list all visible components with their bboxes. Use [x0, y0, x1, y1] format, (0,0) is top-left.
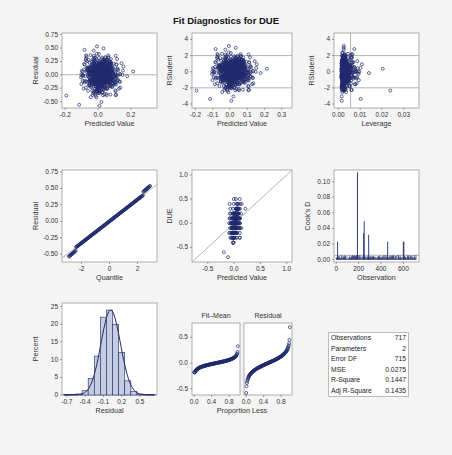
y-tick: 0.75	[45, 168, 58, 175]
y-tick: 0.10	[317, 178, 330, 185]
y-tick: -4	[324, 100, 330, 107]
y-tick: 0.0	[179, 359, 188, 366]
y-tick: -0.50	[43, 98, 58, 105]
x-tick: 0.2	[260, 111, 269, 118]
y-tick: 0.06	[317, 209, 330, 216]
plot-rf-	[190, 323, 240, 397]
svg-text:Observation: Observation	[357, 273, 396, 282]
x-tick: 0.8	[277, 398, 286, 405]
stat-row: Adj R-Square0.1435	[329, 386, 408, 397]
x-tick: 0.3	[277, 111, 286, 118]
svg-text:Predicted Value: Predicted Value	[217, 273, 267, 282]
x-tick: -0.4	[80, 398, 92, 405]
svg-text:Residual: Residual	[254, 312, 282, 319]
y-tick: -0.25	[43, 84, 58, 91]
y-tick: 0.5	[179, 195, 188, 202]
plot-rstudent-vs-predicted	[190, 33, 292, 110]
stat-row: R-Square0.1447	[329, 375, 408, 386]
x-tick: 0	[334, 265, 338, 272]
x-tick: -0.7	[61, 398, 73, 405]
y-tick: 10	[51, 356, 59, 363]
y-tick: 0.04	[317, 224, 330, 231]
svg-text:Quantile: Quantile	[96, 273, 123, 282]
stat-row: Error DF715	[329, 354, 408, 365]
svg-text:Fit–Mean: Fit–Mean	[201, 312, 230, 319]
y-tick: -4	[182, 100, 188, 107]
plot-q-q-plot-of-residuals	[60, 170, 157, 264]
x-tick: 0.4	[259, 398, 268, 405]
y-tick: 0.50	[45, 44, 58, 51]
y-tick: -0.25	[43, 234, 58, 241]
plot-residual-vs-predicted	[60, 33, 157, 110]
y-tick: 25	[51, 303, 59, 310]
y-tick: 15	[51, 338, 59, 345]
x-tick: 1.0	[282, 265, 291, 272]
x-tick: -0.5	[202, 265, 214, 272]
y-tick: 0.08	[317, 193, 330, 200]
svg-text:Residual: Residual	[31, 56, 40, 84]
x-tick: 600	[398, 265, 409, 272]
y-tick: 1.0	[179, 171, 188, 178]
x-tick: 0.02	[376, 111, 389, 118]
x-tick: -2	[79, 265, 85, 272]
y-tick: -0.5	[177, 243, 189, 250]
y-tick: 2	[184, 52, 188, 59]
plot-residual-histogram	[60, 303, 157, 397]
x-tick: 0.5	[256, 265, 265, 272]
svg-text:Leverage: Leverage	[362, 119, 392, 128]
x-tick: 0.1	[243, 111, 252, 118]
x-tick: -0.1	[207, 111, 219, 118]
x-tick: 0.0	[230, 265, 239, 272]
svg-text:Residual: Residual	[96, 406, 124, 415]
y-tick: 5	[54, 373, 58, 380]
y-tick: -2	[324, 84, 330, 91]
y-tick: 0.25	[45, 57, 58, 64]
x-tick: 0.00	[332, 111, 345, 118]
y-tick: 0.00	[317, 256, 330, 263]
svg-text:RStudent: RStudent	[165, 56, 174, 86]
x-tick: 0.01	[354, 111, 367, 118]
x-tick: -0.2	[60, 111, 72, 118]
y-tick: 0.75	[45, 31, 58, 38]
plot-due-vs-predicted	[190, 170, 292, 264]
svg-text:RStudent: RStudent	[307, 56, 316, 86]
y-tick: 0.00	[45, 217, 58, 224]
svg-text:Predicted Value: Predicted Value	[217, 119, 267, 128]
y-tick: 2	[326, 52, 330, 59]
plot-rf-	[244, 323, 292, 397]
y-tick: 0.50	[45, 184, 58, 191]
stat-row: Parameters2	[329, 344, 408, 355]
y-tick: 0.02	[317, 240, 330, 247]
y-tick: 0	[54, 391, 58, 398]
x-tick: 400	[376, 265, 387, 272]
svg-text:Cook's D: Cook's D	[303, 202, 312, 231]
y-tick: 0.5	[179, 333, 188, 340]
y-tick: 4	[184, 35, 188, 42]
x-tick: 0.0	[94, 111, 103, 118]
y-tick: 0.25	[45, 201, 58, 208]
svg-text:Percent: Percent	[31, 337, 40, 362]
x-tick: 0.2	[117, 398, 126, 405]
x-tick: 0.2	[126, 111, 135, 118]
plot-cook-s-d	[332, 170, 419, 264]
x-tick: -0.2	[190, 111, 202, 118]
x-tick: 0.0	[190, 398, 199, 405]
y-tick: -2	[182, 84, 188, 91]
fit-statistics-table: Observations717 Parameters2 Error DF715 …	[328, 332, 409, 397]
svg-text:Proportion Less: Proportion Less	[217, 406, 268, 415]
y-tick: 0.0	[179, 219, 188, 226]
x-tick: 0.0	[225, 111, 234, 118]
x-tick: 0.03	[397, 111, 410, 118]
y-tick: 0	[326, 68, 330, 75]
x-tick: 0	[108, 265, 112, 272]
y-tick: 4	[326, 35, 330, 42]
svg-text:Residual: Residual	[31, 202, 40, 230]
x-tick: 0.8	[225, 398, 234, 405]
x-tick: 0.5	[135, 398, 144, 405]
x-tick: -0.1	[98, 398, 110, 405]
x-tick: 0.4	[207, 398, 216, 405]
y-tick: -0.5	[177, 385, 189, 392]
y-tick: -0.50	[43, 250, 58, 257]
stat-row: Observations717	[329, 333, 408, 344]
svg-text:DUE: DUE	[165, 208, 174, 223]
